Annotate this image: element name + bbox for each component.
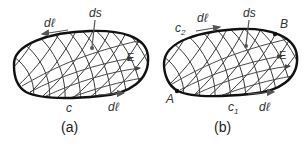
point-a-dot <box>175 89 179 93</box>
field-label-b: E <box>279 49 286 61</box>
caption-a: (a) <box>61 119 78 135</box>
contour-c1-c2 <box>164 29 297 96</box>
point-b-label: B <box>280 17 288 31</box>
ds-label-b: ds <box>243 6 256 20</box>
contour-label-c: c <box>66 101 72 115</box>
point-b-dot <box>273 32 277 36</box>
ds-label-a: ds <box>89 6 102 20</box>
figure-a: dℓ ds E c dℓ (a) <box>0 6 176 135</box>
figure-b: c2 dℓ ds B E A c1 dℓ (b) <box>150 6 305 135</box>
dl-top-label-b: dℓ <box>197 11 209 25</box>
point-a-label: A <box>165 92 174 106</box>
field-label-a: E <box>127 51 134 63</box>
surface-mesh-a <box>0 10 176 110</box>
dl-bottom-label-a: dℓ <box>108 100 120 114</box>
contour-label-c1: c1 <box>228 100 238 116</box>
diagram-canvas: dℓ ds E c dℓ (a) <box>0 0 305 145</box>
dl-bottom-label-b: dℓ <box>259 100 271 114</box>
caption-b: (b) <box>214 119 231 135</box>
dl-top-label-a: dℓ <box>44 16 56 30</box>
ds-pointer <box>92 20 95 47</box>
contour-label-c2: c2 <box>175 21 186 37</box>
